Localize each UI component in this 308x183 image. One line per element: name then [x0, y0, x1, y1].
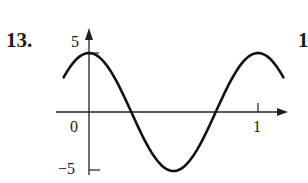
y-label-5: 5 [71, 33, 79, 51]
y-label-neg5: −5 [58, 160, 75, 178]
x-axis-arrow-icon [277, 108, 288, 116]
chart-plot [0, 0, 308, 183]
y-axis-arrow-icon [85, 28, 93, 40]
x-label-1: 1 [253, 118, 261, 136]
origin-label: 0 [70, 118, 78, 136]
